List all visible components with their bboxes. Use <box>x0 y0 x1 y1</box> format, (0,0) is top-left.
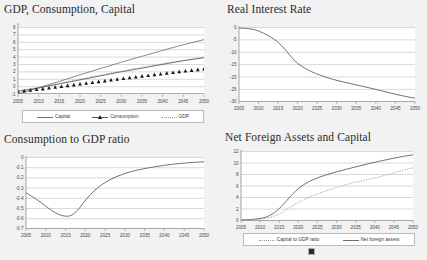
svg-text:-0.1: -0.1 <box>16 165 24 170</box>
svg-text:2040: 2040 <box>371 106 382 111</box>
legend-item-consumption: Consumption <box>92 114 138 119</box>
svg-text:2025: 2025 <box>100 233 111 238</box>
svg-text:2050: 2050 <box>199 99 210 104</box>
svg-text:2020: 2020 <box>292 106 303 111</box>
svg-text:-0.6: -0.6 <box>16 216 24 221</box>
svg-text:2010: 2010 <box>253 106 264 111</box>
svg-text:2045: 2045 <box>390 106 401 111</box>
svg-text:-0.7: -0.7 <box>16 226 24 231</box>
svg-text:3: 3 <box>13 62 16 67</box>
svg-text:2030: 2030 <box>332 106 343 111</box>
chart-title-real-interest-rate: Real Interest Rate <box>227 3 311 15</box>
svg-text:8: 8 <box>13 25 16 30</box>
svg-text:2005: 2005 <box>13 99 24 104</box>
panel-net-foreign-assets-and-capital: Net Foreign Assets and Capital 12108 <box>213 130 427 260</box>
svg-text:2015: 2015 <box>274 225 285 230</box>
legend-label-gdp: GDP <box>179 114 189 119</box>
legend-nfa: Capital to GDP ratio Net foreign assets <box>243 233 415 246</box>
svg-text:2025: 2025 <box>312 225 323 230</box>
svg-text:2030: 2030 <box>116 99 127 104</box>
chart-title-gdp-consumption-capital: GDP, Consumption, Capital <box>4 3 135 15</box>
svg-text:1: 1 <box>13 77 16 82</box>
svg-text:2010: 2010 <box>255 225 266 230</box>
svg-text:2045: 2045 <box>179 233 190 238</box>
svg-text:0: 0 <box>234 25 237 30</box>
svg-text:2040: 2040 <box>370 225 381 230</box>
svg-text:7: 7 <box>13 32 16 37</box>
legend-label-capital-to-gdp-ratio: Capital to GDP ratio <box>277 237 320 242</box>
svg-text:-25: -25 <box>230 87 237 92</box>
svg-text:2015: 2015 <box>273 106 284 111</box>
axes-cgdp: 0-0.1-0.2 -0.3-0.4-0.5 -0.6-0.7 20052010… <box>0 150 213 240</box>
svg-text:-10: -10 <box>230 50 237 55</box>
chart-title-consumption-to-gdp-ratio: Consumption to GDP ratio <box>4 133 130 145</box>
legend-label-net-foreign-assets: Net foreign assets <box>361 237 400 242</box>
svg-text:2045: 2045 <box>389 225 400 230</box>
svg-text:2050: 2050 <box>410 106 421 111</box>
svg-text:2045: 2045 <box>178 99 189 104</box>
svg-text:-0.5: -0.5 <box>16 206 24 211</box>
legend-swatch-line-icon <box>37 115 53 119</box>
panel-gdp-consumption-capital: GDP, Consumption, Capital <box>0 0 213 130</box>
svg-text:6: 6 <box>236 184 239 189</box>
svg-text:2010: 2010 <box>33 99 44 104</box>
svg-text:-0.4: -0.4 <box>16 196 24 201</box>
svg-text:0: 0 <box>13 84 16 89</box>
svg-text:10: 10 <box>233 161 239 166</box>
svg-text:-20: -20 <box>230 75 237 80</box>
svg-text:2030: 2030 <box>120 233 131 238</box>
svg-text:2015: 2015 <box>60 233 71 238</box>
svg-text:-0.2: -0.2 <box>16 175 24 180</box>
svg-text:2035: 2035 <box>140 233 151 238</box>
svg-text:2035: 2035 <box>351 225 362 230</box>
svg-text:2005: 2005 <box>234 106 245 111</box>
svg-text:-5: -5 <box>232 37 237 42</box>
axes-rir: 0-5-10 -15-20-25 -30 200520102015 202020… <box>221 20 427 112</box>
legend-gdp: Capital Consumption GDP <box>22 110 204 123</box>
legend-item-capital: Capital <box>37 114 70 119</box>
legend-label-consumption: Consumption <box>110 114 138 119</box>
legend-swatch-dotted-icon <box>161 115 177 119</box>
svg-text:2020: 2020 <box>80 233 91 238</box>
svg-text:2020: 2020 <box>293 225 304 230</box>
chart-title-net-foreign-assets: Net Foreign Assets and Capital <box>225 131 371 143</box>
svg-text:2005: 2005 <box>236 225 247 230</box>
svg-text:2005: 2005 <box>21 233 32 238</box>
legend-swatch-triangle-icon <box>92 115 108 119</box>
svg-text:4: 4 <box>236 195 239 200</box>
svg-text:6: 6 <box>13 40 16 45</box>
legend-item-gdp: GDP <box>161 114 189 119</box>
legend-item-net-foreign-assets: Net foreign assets <box>343 237 400 242</box>
svg-text:2025: 2025 <box>312 106 323 111</box>
legend-item-capital-to-gdp-ratio: Capital to GDP ratio <box>259 237 320 242</box>
svg-text:2015: 2015 <box>54 99 65 104</box>
svg-text:2030: 2030 <box>331 225 342 230</box>
svg-text:2050: 2050 <box>199 233 210 238</box>
svg-text:8: 8 <box>236 172 239 177</box>
svg-text:2040: 2040 <box>157 99 168 104</box>
panel-real-interest-rate: Real Interest Rate 0-5-10 -15-20-25 <box>213 0 427 130</box>
mouse-cursor-artifact <box>309 249 314 254</box>
svg-text:-30: -30 <box>230 99 237 104</box>
legend-label-capital: Capital <box>55 114 70 119</box>
svg-text:2040: 2040 <box>159 233 170 238</box>
svg-text:2: 2 <box>236 207 239 212</box>
svg-text:0: 0 <box>21 155 24 160</box>
legend-swatch-dotted-icon <box>259 238 275 242</box>
svg-text:2: 2 <box>13 69 16 74</box>
axes-nfa: 12108 642 0 200520102015 202020252030 20… <box>223 144 427 236</box>
axes-gdp: 876 543 210 -1 200520102015 202020252030… <box>0 20 213 105</box>
svg-text:2050: 2050 <box>408 225 419 230</box>
svg-text:-1: -1 <box>11 92 16 97</box>
svg-text:0: 0 <box>236 218 239 223</box>
svg-text:-15: -15 <box>230 62 237 67</box>
svg-text:4: 4 <box>13 55 16 60</box>
svg-text:2010: 2010 <box>41 233 52 238</box>
svg-text:-0.3: -0.3 <box>16 186 24 191</box>
panel-consumption-to-gdp-ratio: Consumption to GDP ratio 0-0.1-0.2 <box>0 130 213 260</box>
svg-text:2035: 2035 <box>137 99 148 104</box>
svg-text:12: 12 <box>233 149 239 154</box>
svg-text:2025: 2025 <box>95 99 106 104</box>
svg-text:2020: 2020 <box>75 99 86 104</box>
chart-panel-grid: GDP, Consumption, Capital <box>0 0 427 260</box>
